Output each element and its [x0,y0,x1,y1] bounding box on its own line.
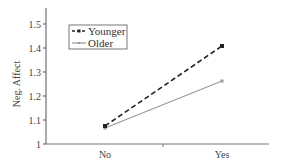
legend: Younger Older [69,25,127,49]
svg-text:1.1: 1.1 [29,115,42,126]
svg-text:Yes: Yes [215,149,230,160]
line-chart: 1 1.1 1.2 1.3 1.4 1.5 Neg. Affect No Yes… [0,0,286,165]
svg-text:No: No [99,149,111,160]
y-axis-title: Neg. Affect [11,61,22,108]
series-older [104,80,224,130]
svg-text:1.2: 1.2 [29,91,42,102]
svg-text:1.5: 1.5 [29,19,42,30]
series-younger [103,44,224,128]
svg-text:1: 1 [36,139,41,150]
svg-text:1.4: 1.4 [29,43,42,54]
svg-text:1.3: 1.3 [29,67,42,78]
svg-text:Older: Older [88,37,113,49]
svg-text:Younger: Younger [88,25,126,37]
x-tick-labels: No Yes [99,149,229,160]
y-tick-labels: 1 1.1 1.2 1.3 1.4 1.5 [29,19,42,150]
